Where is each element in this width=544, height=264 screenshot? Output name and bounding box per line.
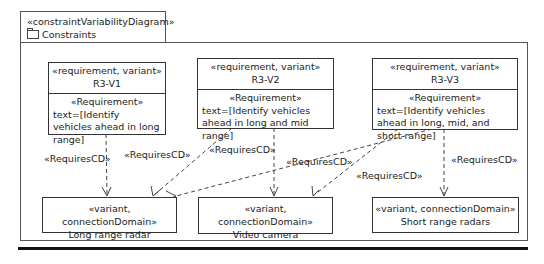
edge-label: «RequiresCD» [286,156,353,167]
edge-label: «RequiresCD» [356,170,423,181]
edge-label: «RequiresCD» [451,154,518,165]
domain-name: Short range radars [373,215,518,228]
requirement-text: text=[Identify vehicles ahead in long ra… [53,109,161,147]
requirement-name: R3-V1 [51,78,163,91]
domain-video-camera[interactable]: «variant, connectionDomain» Video camera [198,197,333,234]
domain-stereotype: «variant, connectionDomain» [43,202,176,228]
requirement-body-stereotype: «Requirement» [53,96,161,109]
domain-long-range-radar[interactable]: «variant, connectionDomain» Long range r… [42,197,177,233]
requirement-name: R3-V2 [200,74,331,87]
requirement-stereotype: «requirement, variant» [200,61,331,74]
requirement-r3-v2[interactable]: «requirement, variant» R3-V2 «Requiremen… [197,58,334,129]
edge-label: «RequiresCD» [209,144,276,155]
requirement-stereotype: «requirement, variant» [375,61,515,74]
requirement-r3-v1[interactable]: «requirement, variant» R3-V1 «Requiremen… [48,62,166,135]
requirement-text: text=[Identify vehicles ahead in long an… [202,105,329,143]
requirement-r3-v3[interactable]: «requirement, variant» R3-V3 «Requiremen… [372,58,518,130]
requirement-body-stereotype: «Requirement» [202,92,329,105]
edge-label: «RequiresCD» [124,149,191,160]
requirement-text: text=[Identify vehicles ahead in long, m… [377,105,513,143]
domain-stereotype: «variant, connectionDomain» [199,202,332,228]
edge-label: «RequiresCD» [44,153,111,164]
domain-stereotype: «variant, connectionDomain» [373,202,518,215]
requirement-body-stereotype: «Requirement» [377,92,513,105]
domain-name: Video camera [199,228,332,241]
domain-short-range-radars[interactable]: «variant, connectionDomain» Short range … [372,197,519,233]
requirement-name: R3-V3 [375,74,515,87]
requirement-stereotype: «requirement, variant» [51,65,163,78]
domain-name: Long range radar [43,228,176,241]
